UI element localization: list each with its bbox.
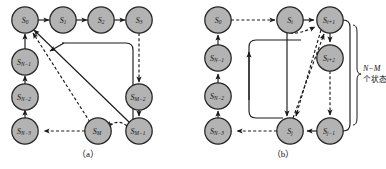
node-sn3[interactable]: SN−3 xyxy=(205,118,231,144)
edge-right-bypass xyxy=(340,20,350,131)
node-s0[interactable]: S0 xyxy=(205,7,231,33)
node-si1[interactable]: Si+1 xyxy=(317,7,343,33)
figure-root: S0 S1 S2 S3 xyxy=(0,0,386,169)
edge-rounded-loop-b xyxy=(249,40,301,118)
node-si[interactable]: Si xyxy=(277,7,303,33)
node-sn2[interactable]: SN−2 xyxy=(12,84,38,110)
caption-b: （b） xyxy=(272,149,295,159)
node-sm2[interactable]: SM−2 xyxy=(126,84,152,110)
node-sn1[interactable]: SN−1 xyxy=(205,45,231,71)
edge-rounded-loop-a xyxy=(62,43,133,120)
node-sn3[interactable]: SN−3 xyxy=(12,118,38,144)
node-sm1[interactable]: SM−1 xyxy=(126,118,152,144)
edge-si1-sj-down xyxy=(296,30,321,116)
edge-sm-s0-return xyxy=(33,33,90,122)
node-sn1[interactable]: SN−1 xyxy=(12,49,38,75)
edge-sj-si1-up xyxy=(293,34,324,118)
panel-a-svg: S0 S1 S2 S3 xyxy=(0,0,193,169)
node-sj1[interactable]: Sj−1 xyxy=(317,118,343,144)
brace-label-line2: 个状态 xyxy=(363,74,386,84)
panel-a: S0 S1 S2 S3 xyxy=(0,0,193,169)
node-s2[interactable]: S2 xyxy=(88,7,114,33)
panel-b: N−M 个状态 S0 Si Si+1 xyxy=(193,0,386,169)
node-s1[interactable]: S1 xyxy=(50,7,76,33)
caption-a: （a） xyxy=(77,149,99,159)
node-sm[interactable]: SM xyxy=(85,118,111,144)
node-s0[interactable]: S0 xyxy=(12,7,38,33)
node-sn2[interactable]: SN−2 xyxy=(205,83,231,109)
node-s3[interactable]: S3 xyxy=(126,7,152,33)
node-si2[interactable]: Si+2 xyxy=(317,45,343,71)
brace-label-line1: N−M xyxy=(362,64,382,73)
brace-n-minus-m xyxy=(353,25,361,125)
node-sj[interactable]: Sj xyxy=(277,118,303,144)
panel-b-svg: N−M 个状态 S0 Si Si+1 xyxy=(193,0,386,169)
